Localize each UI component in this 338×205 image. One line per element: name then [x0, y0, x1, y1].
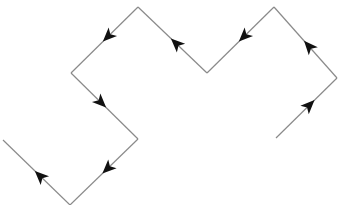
path-segment	[276, 78, 337, 138]
arrowhead-icon	[304, 41, 318, 55]
path-lines	[3, 7, 337, 205]
diagram-canvas	[0, 0, 338, 205]
arrowheads	[35, 28, 318, 185]
